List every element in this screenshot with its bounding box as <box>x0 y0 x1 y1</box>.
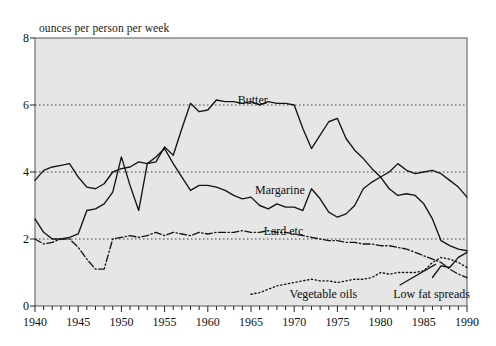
series-label-low-fat-spreads: Low fat spreads <box>393 287 470 302</box>
x-tick-label: 1965 <box>239 315 263 330</box>
x-tick-label: 1960 <box>196 315 220 330</box>
series-label-margarine: Margarine <box>255 183 305 198</box>
x-tick-label: 1945 <box>66 315 90 330</box>
x-tick-label: 1975 <box>325 315 349 330</box>
x-tick-label: 1990 <box>455 315 479 330</box>
x-tick-label: 1985 <box>412 315 436 330</box>
x-tick-label: 1950 <box>109 315 133 330</box>
y-tick-label: 6 <box>9 98 29 113</box>
chart-figure: ounces per person per week 1940194519501… <box>0 0 496 346</box>
x-tick-label: 1980 <box>369 315 393 330</box>
series-label-butter: Butter <box>238 93 268 108</box>
x-tick-label: 1940 <box>23 315 47 330</box>
y-tick-label: 0 <box>9 299 29 314</box>
x-tick-label: 1955 <box>153 315 177 330</box>
series-label-lard-etc: Lard etc <box>264 224 304 239</box>
y-tick-label: 8 <box>9 31 29 46</box>
y-tick-label: 2 <box>9 232 29 247</box>
y-tick-label: 4 <box>9 165 29 180</box>
x-tick-label: 1970 <box>282 315 306 330</box>
series-label-vegetable-oils: Vegetable oils <box>290 287 358 302</box>
